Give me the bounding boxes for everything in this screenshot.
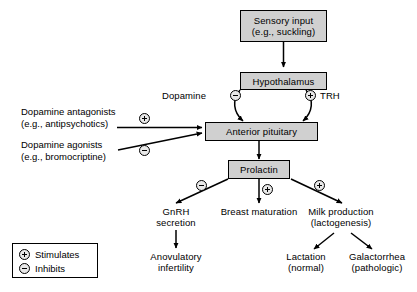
label-milk-production-line2: (lactogenesis): [294, 217, 388, 228]
legend-inhibits-label: Inhibits: [35, 263, 65, 274]
diagram-canvas: Sensory input (e.g., suckling) Hypothala…: [0, 0, 417, 292]
sign-agonists-inhibits: [139, 145, 150, 156]
sign-breast-stimulates: [262, 184, 273, 195]
sign-antagonists-stimulates: [139, 113, 150, 124]
node-anterior-pituitary: Anterior pituitary: [205, 122, 318, 141]
node-sensory-input-line1: Sensory input: [254, 15, 313, 26]
label-milk-production-line1: Milk production: [294, 206, 388, 217]
label-dopamine-agonists: Dopamine agonists (e.g., bromocriptine): [21, 139, 106, 162]
label-anovulatory-infertility: Anovulatory infertility: [135, 251, 217, 273]
label-dopamine-text: Dopamine: [162, 90, 206, 101]
sign-milk-stimulates: [314, 180, 325, 191]
node-hypothalamus: Hypothalamus: [240, 72, 327, 90]
label-dopamine-agonists-line2: (e.g., bromocriptine): [21, 151, 106, 163]
label-anovulatory-infertility-line1: Anovulatory: [135, 251, 217, 262]
sign-trh-stimulates: [305, 90, 316, 101]
label-gnrh-secretion-line1: GnRH: [141, 206, 211, 217]
label-lactation: Lactation (normal): [272, 251, 340, 273]
label-dopamine-antagonists-line2: (e.g., antipsychotics): [21, 118, 116, 130]
label-milk-production: Milk production (lactogenesis): [294, 206, 388, 228]
label-anovulatory-infertility-line2: infertility: [135, 262, 217, 273]
label-galactorrhea-line2: (pathologic): [337, 262, 417, 273]
sign-gnrh-inhibits: [196, 180, 207, 191]
label-trh: TRH: [320, 90, 340, 101]
edge-milk-to-lactation: [314, 233, 334, 249]
node-sensory-input: Sensory input (e.g., suckling): [240, 10, 327, 42]
label-dopamine-antagonists-line1: Dopamine antagonists: [21, 106, 116, 118]
label-lactation-line2: (normal): [272, 262, 340, 273]
label-dopamine: Dopamine: [162, 90, 206, 101]
node-prolactin: Prolactin: [228, 160, 290, 179]
label-gnrh-secretion: GnRH secretion: [141, 206, 211, 228]
sign-dopamine-inhibits: [230, 90, 241, 101]
node-sensory-input-line2: (e.g., suckling): [252, 26, 315, 37]
legend-minus-icon: [19, 263, 30, 274]
label-trh-text: TRH: [320, 90, 340, 101]
legend-stimulates-label: Stimulates: [35, 249, 79, 260]
legend-row-inhibits: Inhibits: [19, 262, 97, 275]
node-prolactin-label: Prolactin: [240, 164, 278, 175]
label-dopamine-agonists-line1: Dopamine agonists: [21, 139, 106, 151]
legend-box: Stimulates Inhibits: [12, 243, 98, 278]
legend-row-stimulates: Stimulates: [19, 248, 97, 261]
node-anterior-pituitary-label: Anterior pituitary: [226, 126, 297, 137]
label-galactorrhea: Galactorrhea (pathologic): [337, 251, 417, 273]
label-dopamine-antagonists: Dopamine antagonists (e.g., antipsychoti…: [21, 106, 116, 129]
edge-agonists-to-pituitary: [118, 133, 202, 150]
label-gnrh-secretion-line2: secretion: [141, 217, 211, 228]
legend-plus-icon: [19, 249, 30, 260]
edge-milk-to-galactorrhea: [351, 233, 372, 249]
label-galactorrhea-line1: Galactorrhea: [337, 251, 417, 262]
label-lactation-line1: Lactation: [272, 251, 340, 262]
node-hypothalamus-label: Hypothalamus: [253, 76, 315, 87]
